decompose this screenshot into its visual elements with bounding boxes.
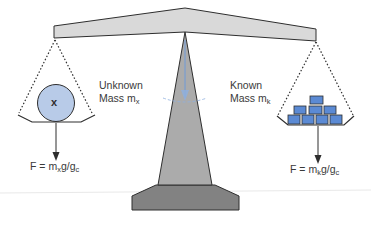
- brick: [324, 106, 336, 114]
- right-force-formula: F = mkg/gc: [290, 163, 339, 175]
- known-mass-bricks: [288, 96, 342, 124]
- unknown-label-line1: Unknown: [99, 79, 143, 92]
- left-force-formula: F = mxg/gc: [30, 160, 79, 172]
- brick: [309, 106, 322, 114]
- pointer-needle: [163, 40, 207, 102]
- known-label-line2: Mass mk: [230, 92, 271, 105]
- brick: [294, 106, 306, 114]
- unknown-mass-symbol: x: [51, 96, 57, 109]
- brick: [288, 115, 300, 124]
- known-label-line1: Known: [230, 79, 271, 92]
- brick: [302, 115, 314, 124]
- known-mass-label: Known Mass mk: [230, 79, 271, 105]
- fulcrum-base: [132, 185, 239, 210]
- right-force-arrow: [315, 126, 322, 164]
- unknown-label-line2: Mass mx: [99, 92, 143, 105]
- left-force-arrow: [53, 123, 60, 161]
- brick: [310, 96, 323, 104]
- unknown-mass-label: Unknown Mass mx: [99, 79, 143, 105]
- brick: [330, 115, 342, 124]
- brick: [316, 115, 328, 124]
